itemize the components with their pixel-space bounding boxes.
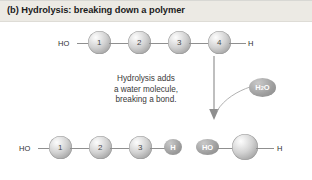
bottom-right-bond-terminal [256,148,274,149]
bottom-monomer-1-label: 1 [58,143,62,152]
added-hydrogen-label: H [170,143,175,152]
added-hydrogen-group: H [164,139,182,155]
bottom-right-terminal-label: H [277,144,282,153]
water-molecule-bubble: H2O [249,78,276,97]
bottom-monomer-3-label: 3 [138,143,142,152]
figure-title: (b) Hydrolysis: breaking down a polymer [7,5,185,15]
water-addition-curve [217,87,250,111]
bottom-left-terminal-label: HO [19,144,30,153]
water-label-o: O [264,83,270,92]
bottom-monomer-1: 1 [49,136,72,159]
added-hydroxyl-label: HO [202,143,213,152]
bottom-monomer-2-label: 2 [98,143,102,152]
bottom-right-monomer [232,134,258,160]
diagram-canvas: HO 1 2 3 4 H Hydrolysis adds a water m [0,21,312,180]
added-hydroxyl-group: HO [196,139,219,155]
reaction-arrow-layer [0,21,312,180]
bottom-monomer-3: 3 [129,136,152,159]
hydrolysis-figure-panel: (b) Hydrolysis: breaking down a polymer … [0,0,312,180]
bottom-monomer-2: 2 [89,136,112,159]
